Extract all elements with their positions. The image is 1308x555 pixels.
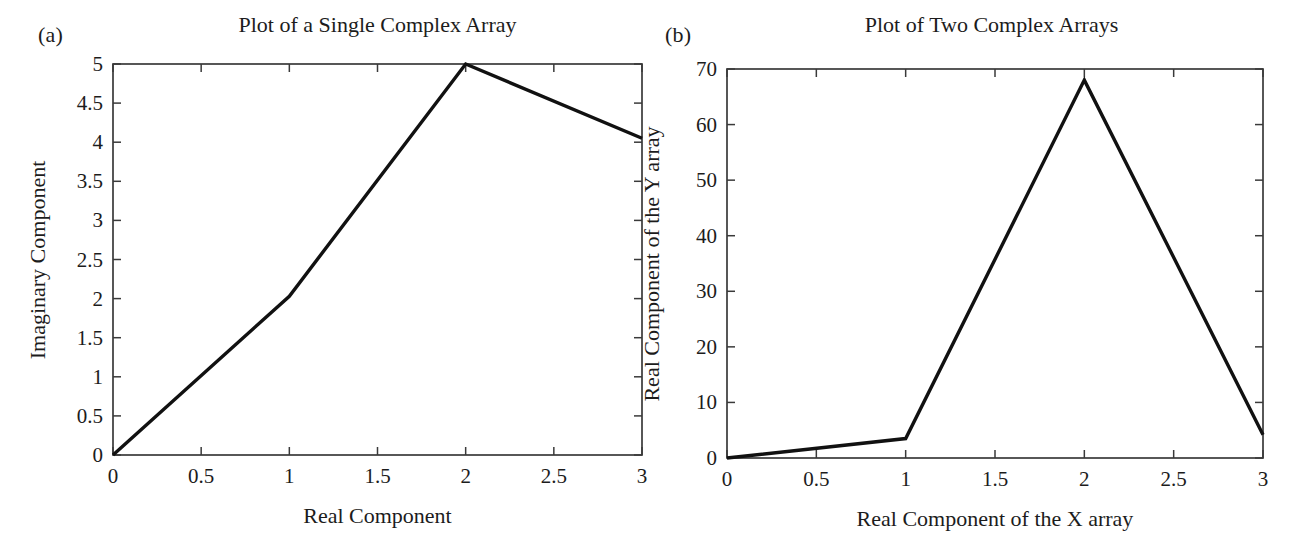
x-tick-label: 1.5	[364, 464, 390, 489]
x-tick-label: 0	[108, 464, 119, 489]
y-tick-label: 2.5	[53, 247, 103, 272]
y-tick-label: 60	[667, 112, 717, 137]
x-tick-label: 3	[637, 464, 648, 489]
y-tick-label: 30	[667, 279, 717, 304]
data-series-line	[727, 80, 1263, 458]
y-tick-label: 3.5	[53, 169, 103, 194]
y-tick-label: 0	[53, 443, 103, 468]
y-tick-label: 20	[667, 334, 717, 359]
y-axis-title-a: Imaginary Component	[25, 64, 51, 455]
y-tick-label: 5	[53, 52, 103, 77]
x-tick-label: 2	[1079, 467, 1090, 492]
x-axis-title-b: Real Component of the X array	[727, 506, 1263, 532]
y-tick-label: 4.5	[53, 91, 103, 116]
y-tick-label: 50	[667, 168, 717, 193]
y-tick-label: 0.5	[53, 403, 103, 428]
y-tick-label: 3	[53, 208, 103, 233]
y-tick-label: 2	[53, 286, 103, 311]
y-axis-title-b: Real Component of the Y array	[639, 69, 665, 458]
y-tick-label: 4	[53, 130, 103, 155]
chart-panel-b: (b) Plot of Two Complex Arrays 00.511.52…	[654, 0, 1308, 555]
y-tick-label: 1.5	[53, 325, 103, 350]
y-tick-label: 70	[667, 57, 717, 82]
x-tick-label: 2	[460, 464, 471, 489]
chart-panel-a: (a) Plot of a Single Complex Array 00.51…	[0, 0, 654, 555]
x-axis-title-a: Real Component	[113, 503, 642, 529]
x-tick-label: 1.5	[982, 467, 1008, 492]
x-tick-label: 1	[284, 464, 295, 489]
y-tick-label: 40	[667, 223, 717, 248]
figure-two-complex-array-plots: (a) Plot of a Single Complex Array 00.51…	[0, 0, 1308, 555]
x-tick-label: 2.5	[1161, 467, 1187, 492]
data-series-line	[113, 64, 642, 455]
x-tick-label: 0.5	[188, 464, 214, 489]
axis-frame	[113, 64, 642, 455]
x-tick-label: 1	[900, 467, 911, 492]
y-tick-label: 1	[53, 364, 103, 389]
y-tick-label: 0	[667, 446, 717, 471]
x-tick-label: 3	[1258, 467, 1269, 492]
axis-frame	[727, 69, 1263, 458]
y-tick-label: 10	[667, 390, 717, 415]
x-tick-label: 2.5	[541, 464, 567, 489]
x-tick-label: 0	[722, 467, 733, 492]
x-tick-label: 0.5	[803, 467, 829, 492]
